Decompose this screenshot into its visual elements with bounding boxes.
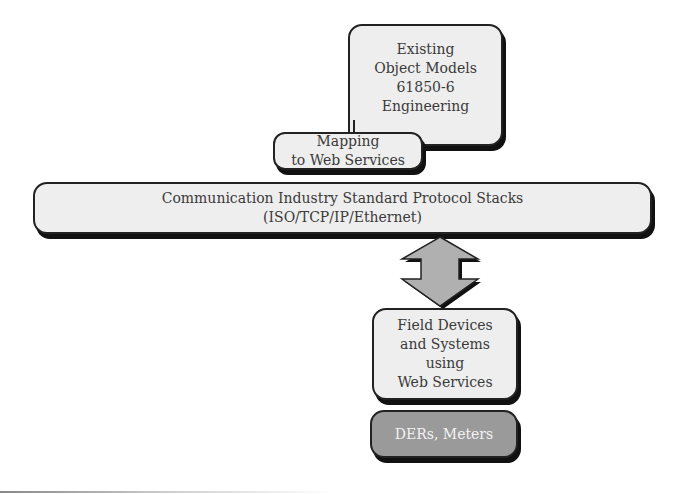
ders-meters-box: DERs, Meters — [370, 410, 518, 458]
object-models-box: Existing Object Models 61850-6 Engineeri… — [348, 24, 503, 146]
bidirectional-arrow-icon — [392, 234, 487, 312]
field-devices-box: Field Devices and Systems using Web Serv… — [372, 308, 518, 400]
object-models-label: Existing Object Models 61850-6 Engineeri… — [374, 40, 477, 116]
field-devices-label: Field Devices and Systems using Web Serv… — [397, 316, 493, 392]
mapping-label: Mapping to Web Services — [291, 132, 405, 170]
ders-meters-label: DERs, Meters — [395, 425, 493, 444]
mapping-box: Mapping to Web Services — [273, 132, 423, 170]
bottom-divider — [0, 491, 330, 493]
protocol-stacks-box: Communication Industry Standard Protocol… — [33, 182, 652, 234]
protocol-stacks-label: Communication Industry Standard Protocol… — [162, 189, 524, 227]
